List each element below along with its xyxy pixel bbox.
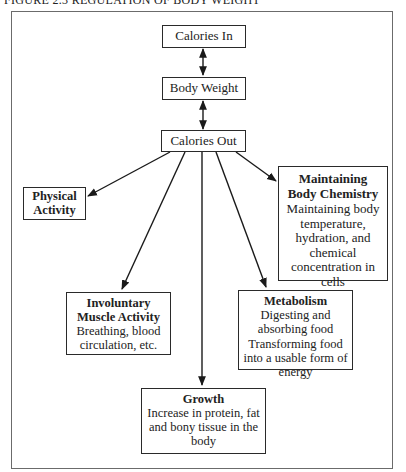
node-description: Increase in protein, fat and bony tissue… bbox=[146, 406, 261, 448]
node-title: Maintaining Body Chemistry bbox=[283, 172, 383, 201]
node-body-chemistry: Maintaining Body Chemistry Maintaining b… bbox=[278, 166, 388, 281]
node-calories-out: Calories Out bbox=[161, 130, 246, 152]
node-title: Growth bbox=[146, 392, 261, 406]
node-calories-in: Calories In bbox=[162, 25, 246, 48]
node-involuntary-muscle: Involuntary Muscle Activity Breathing, b… bbox=[66, 292, 171, 355]
node-physical-activity: Physical Activity bbox=[23, 187, 86, 220]
node-label: Calories In bbox=[175, 29, 232, 44]
node-description-2: Transforming food into a usable form of … bbox=[241, 337, 350, 379]
arrow-to-physical-activity bbox=[88, 152, 170, 196]
node-description-1: Digesting and absorbing food bbox=[241, 308, 350, 336]
node-metabolism: Metabolism Digesting and absorbing food … bbox=[238, 290, 353, 370]
node-title: Metabolism bbox=[241, 294, 350, 308]
node-description: Maintaining body temperature, hydration,… bbox=[283, 202, 383, 289]
arrow-to-metabolism bbox=[216, 152, 266, 287]
arrow-to-body-chemistry bbox=[236, 152, 276, 181]
node-label: Body Weight bbox=[170, 81, 238, 96]
node-growth: Growth Increase in protein, fat and bony… bbox=[141, 388, 266, 454]
node-label: Calories Out bbox=[170, 134, 236, 149]
node-title: Physical Activity bbox=[24, 189, 85, 217]
node-description: Breathing, blood circulation, etc. bbox=[69, 324, 168, 352]
node-body-weight: Body Weight bbox=[162, 77, 246, 100]
node-title: Involuntary Muscle Activity bbox=[69, 296, 168, 324]
